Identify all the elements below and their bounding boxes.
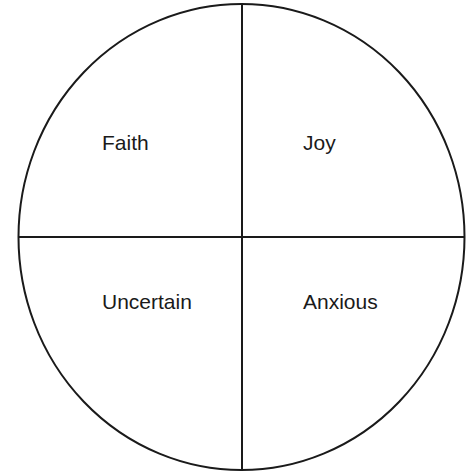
quadrant-label-uncertain: Uncertain — [102, 290, 192, 313]
quadrant-label-faith: Faith — [102, 131, 149, 154]
quadrant-diagram: Faith Joy Uncertain Anxious — [0, 0, 472, 475]
quadrant-label-anxious: Anxious — [303, 290, 378, 313]
quadrant-label-joy: Joy — [303, 131, 336, 154]
